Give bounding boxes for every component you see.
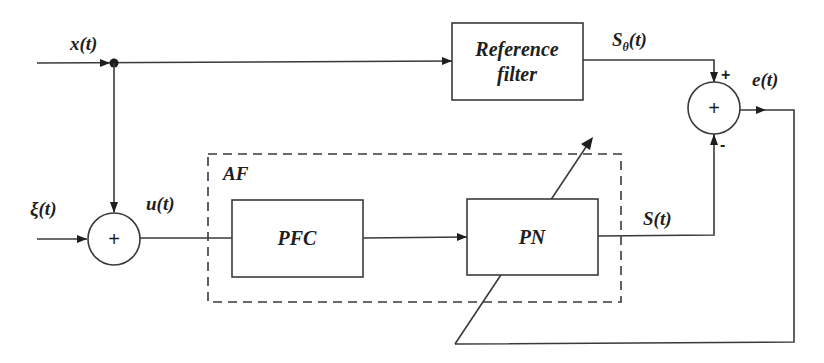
plus-sign-top: + (721, 66, 730, 83)
input-sum-plus: + (108, 228, 120, 250)
label-u-t: u(t) (146, 193, 175, 215)
label-af: AF (222, 163, 249, 184)
error-sum-plus: + (708, 97, 720, 119)
reference-filter-label-line1: Reference (474, 38, 558, 61)
reference-filter-block (452, 23, 583, 100)
label-xi-t: ξ(t) (30, 198, 56, 220)
label-x-t: x(t) (69, 33, 97, 55)
pfc-label: PFC (277, 227, 318, 249)
arrow-icon (442, 57, 452, 65)
pn-label: PN (518, 226, 547, 248)
label-e-t: e(t) (752, 69, 778, 91)
arrow-icon (457, 233, 467, 241)
adaptation-arrow-icon (581, 137, 593, 150)
label-s-theta-t: Sθ(t) (612, 29, 647, 54)
minus-sign-bottom: - (720, 136, 725, 153)
adaptive-filter-block-diagram: x(t) Reference filter Sθ(t) + + - e(t) ξ… (0, 0, 824, 363)
reference-filter-label-line2: filter (497, 63, 537, 86)
arrow-icon (756, 106, 766, 114)
label-s-t: S(t) (643, 208, 672, 230)
arrow-icon (100, 59, 110, 67)
arrow-icon (110, 202, 118, 213)
arrow-icon (710, 134, 718, 145)
input-signal-path (37, 57, 452, 213)
arrow-icon (77, 235, 87, 243)
